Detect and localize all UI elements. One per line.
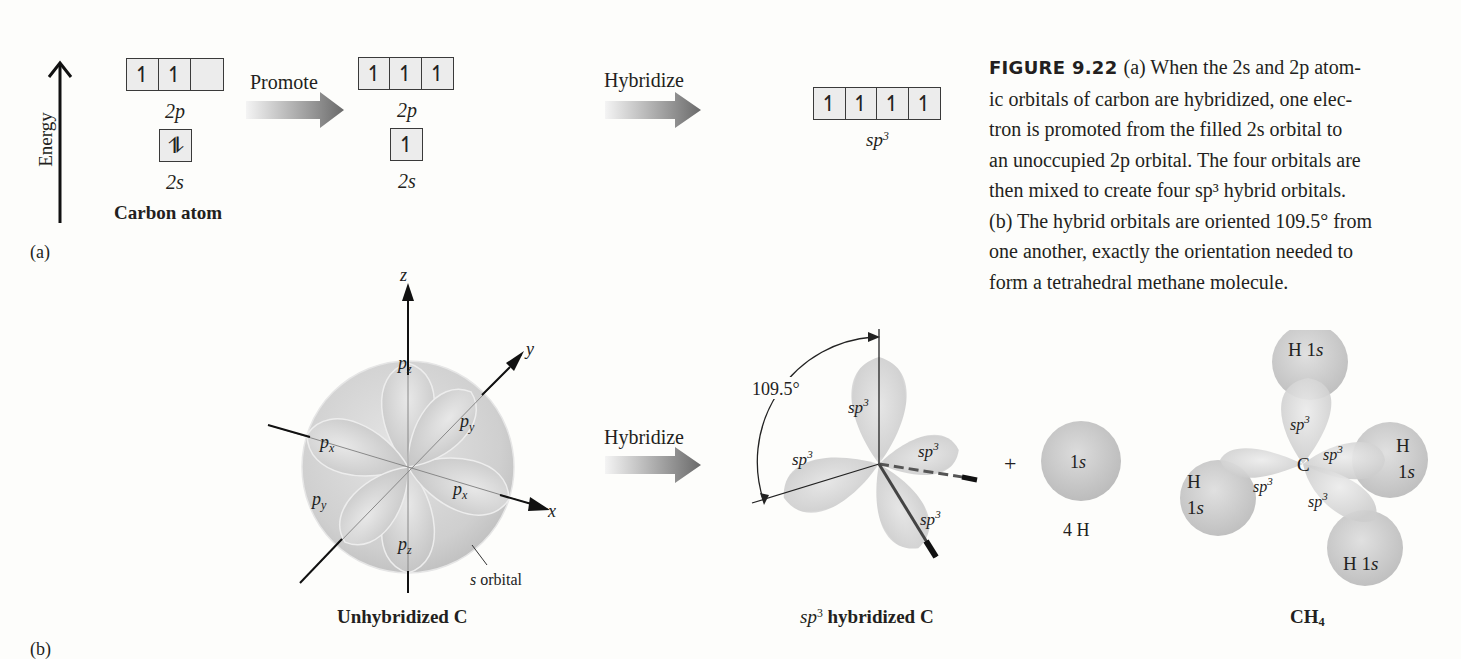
svg-text:z: z xyxy=(399,265,407,285)
svg-text:1s: 1s xyxy=(1187,497,1204,518)
sp3-orbital-box: ↿ ↿ ↿ ↿ xyxy=(813,87,941,120)
svg-text:pz: pz xyxy=(396,353,412,376)
svg-text:1s: 1s xyxy=(1070,452,1086,472)
svg-text:sp3: sp3 xyxy=(1253,475,1273,496)
svg-text:H: H xyxy=(1396,435,1410,456)
svg-text:sp3: sp3 xyxy=(920,508,941,529)
plus-sign: + xyxy=(1004,453,1016,475)
unhybridized-c-title: Unhybridized C xyxy=(337,607,467,626)
figure-number: FIGURE 9.22 xyxy=(989,57,1118,78)
carbon-2s-label: 2s xyxy=(166,172,184,192)
svg-text:sp3: sp3 xyxy=(1308,490,1328,511)
hybridize-label-a: Hybridize xyxy=(604,70,684,90)
promoted-2p-box: ↿ ↿ ↿ xyxy=(358,57,454,90)
promote-arrow-icon xyxy=(246,92,346,128)
energy-axis-label: Energy xyxy=(36,105,55,175)
orbital-cell: ↿ xyxy=(422,58,453,89)
carbon-2p-box: ↿ ↿ xyxy=(126,58,224,91)
sp3-hybridized-c-title: sp3 hybridized C xyxy=(800,607,934,626)
orbital-cell: ↿ xyxy=(846,88,878,119)
svg-text:109.5°: 109.5° xyxy=(752,379,800,399)
orbital-cell: ↿ xyxy=(909,88,940,119)
orbital-cell: ↿ xyxy=(390,58,421,89)
unhybridized-carbon-diagram: z y x pz py px px py pz s orbital xyxy=(250,265,570,600)
svg-text:s orbital: s orbital xyxy=(470,571,523,588)
four-h-label: 4 H xyxy=(1063,521,1090,539)
sp3-label: sp3 xyxy=(866,130,889,149)
svg-text:1s: 1s xyxy=(1398,461,1415,482)
svg-text:H 1s: H 1s xyxy=(1288,339,1323,360)
orbital-cell: ↿ xyxy=(877,88,909,119)
orbital-cell xyxy=(191,59,223,90)
panel-b-label: (b) xyxy=(30,640,51,658)
svg-text:H 1s: H 1s xyxy=(1343,553,1378,574)
promote-label: Promote xyxy=(250,72,318,92)
hybridize-arrow-b-icon xyxy=(605,447,705,483)
methane-diagram: C H 1s H1s H1s H 1s sp3 sp3 sp3 sp3 xyxy=(1160,330,1460,590)
svg-text:x: x xyxy=(547,501,556,521)
orbital-cell: ↿ xyxy=(127,59,159,90)
orbital-cell: ⥮ xyxy=(160,130,191,161)
orbital-cell: ↿ xyxy=(159,59,191,90)
orbital-cell: ↿ xyxy=(814,88,846,119)
promoted-2s-box: ↿ xyxy=(390,128,423,161)
svg-text:H: H xyxy=(1187,471,1201,492)
hybridize-arrow-icon xyxy=(605,92,705,128)
promoted-2p-label: 2p xyxy=(397,100,417,120)
orbital-cell: ↿ xyxy=(359,58,390,89)
figure-caption: FIGURE 9.22(a) When the 2s and 2p atom- … xyxy=(989,52,1459,297)
sp3-hybridized-carbon-diagram: 109.5° sp3 sp3 sp3 sp3 xyxy=(740,315,1000,575)
orbital-cell: ↿ xyxy=(391,129,422,160)
carbon-2p-label: 2p xyxy=(165,101,185,121)
panel-a-label: (a) xyxy=(30,243,50,261)
svg-text:C: C xyxy=(1297,454,1310,475)
carbon-2s-box: ⥮ xyxy=(159,129,192,162)
hydrogen-1s-sphere: 1s xyxy=(1038,418,1124,504)
promoted-2s-label: 2s xyxy=(398,171,416,191)
hybridize-label-b: Hybridize xyxy=(604,427,684,447)
methane-title: CH4 xyxy=(1290,607,1325,626)
svg-text:y: y xyxy=(524,339,534,359)
carbon-atom-title: Carbon atom xyxy=(114,203,222,222)
